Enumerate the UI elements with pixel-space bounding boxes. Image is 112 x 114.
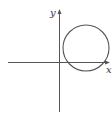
diagram-canvas: y x bbox=[0, 0, 112, 114]
circle bbox=[63, 25, 109, 71]
y-axis-label: y bbox=[49, 7, 56, 18]
coordinate-plane: y x bbox=[0, 0, 112, 114]
y-axis-arrow-icon bbox=[58, 9, 62, 14]
x-axis-label: x bbox=[106, 64, 112, 75]
